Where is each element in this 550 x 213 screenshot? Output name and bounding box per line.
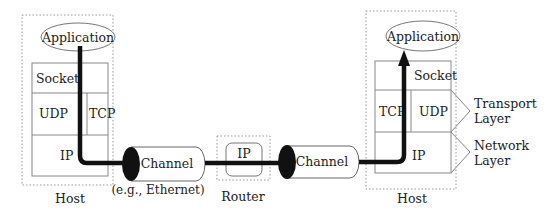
left-socket-label: Socket: [36, 71, 79, 86]
network-path-diagram: Application Socket UDP TCP IP Host Chann…: [0, 0, 550, 213]
left-ip-label: IP: [60, 148, 73, 163]
transport-layer-bracket: [451, 90, 470, 132]
transport-layer-label-line1: Transport: [474, 96, 537, 111]
right-host: Application Socket TCP UDP IP Host: [366, 11, 460, 206]
right-host-label: Host: [397, 191, 427, 206]
left-application-label: Application: [41, 30, 114, 45]
right-ip-label: IP: [412, 148, 425, 163]
right-channel: Channel: [278, 145, 359, 179]
left-tcp-label: TCP: [89, 106, 115, 121]
right-application-label: Application: [386, 29, 459, 44]
network-layer-label-line2: Layer: [474, 153, 510, 168]
transport-layer-label-line2: Layer: [474, 111, 510, 126]
router-label: Router: [221, 189, 264, 204]
right-socket-label: Socket: [414, 68, 457, 83]
arrowhead-icon: [398, 50, 410, 66]
left-udp-label: UDP: [39, 106, 68, 121]
left-host-label: Host: [55, 191, 85, 206]
right-udp-label: UDP: [419, 104, 448, 119]
right-channel-label: Channel: [296, 154, 349, 169]
network-layer-bracket: [451, 132, 470, 173]
right-tcp-label: TCP: [379, 104, 405, 119]
left-channel-caption: (e.g., Ethernet): [111, 183, 204, 197]
left-channel-label: Channel: [141, 156, 194, 171]
left-host: Application Socket UDP TCP IP Host: [22, 15, 115, 206]
router: IP Router: [217, 136, 270, 204]
router-ip-label: IP: [237, 146, 250, 161]
left-channel: Channel (e.g., Ethernet): [111, 147, 205, 197]
layer-brackets: Transport Layer Network Layer: [451, 90, 537, 173]
network-layer-label-line1: Network: [474, 138, 530, 153]
